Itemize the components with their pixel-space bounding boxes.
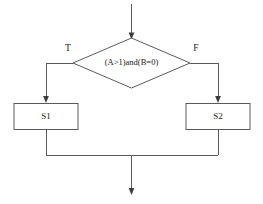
false-branch-arrow-head-icon — [215, 96, 221, 103]
exit-arrow — [129, 155, 135, 195]
decision-node[interactable]: (A>1)and(B=0) — [73, 38, 190, 88]
decision-condition-label: (A>1)and(B=0) — [105, 57, 159, 67]
merge-edge — [46, 130, 218, 156]
process-node-s1[interactable]: S1 — [14, 104, 78, 130]
process-node-s2[interactable]: S2 — [186, 104, 250, 130]
false-branch-edge — [190, 63, 221, 103]
process-s1-label: S1 — [41, 111, 51, 121]
true-branch-edge — [43, 63, 73, 103]
true-branch-label: T — [65, 43, 71, 53]
process-s2-label: S2 — [213, 111, 223, 121]
exit-arrow-head-icon — [129, 188, 135, 195]
flowchart-diagram: (A>1)and(B=0) T F S1 S2 — [0, 0, 263, 204]
false-branch-label: F — [193, 43, 198, 53]
entry-arrow — [129, 4, 135, 40]
true-branch-arrow-head-icon — [43, 96, 49, 103]
flowchart-canvas: (A>1)and(B=0) T F S1 S2 — [0, 0, 263, 204]
